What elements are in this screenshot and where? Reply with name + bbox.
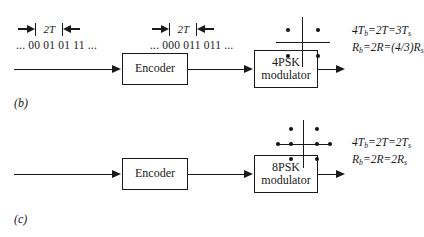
modulator-label-line2-c: modulator	[261, 174, 310, 187]
constellation-axis-vertical-c	[303, 120, 304, 168]
modulator-block-8psk: 8PSK modulator	[254, 155, 318, 193]
timing-bracket-left-b: 2T	[18, 22, 80, 36]
constellation-axis-vertical-b	[302, 17, 303, 67]
arrowhead-into-modulator-b	[244, 65, 253, 73]
4psk-constellation	[262, 12, 344, 46]
timing-label-left-b: 2T	[36, 24, 62, 35]
eq2-lhs-sub-c: b	[359, 158, 363, 167]
panel-caption-b: (b)	[14, 96, 28, 111]
eq2-lhs-b: R	[352, 41, 359, 53]
encoded-bit-sequence: ... 000 011 011 ...	[150, 40, 233, 52]
constellation-point	[315, 127, 319, 131]
timing-arrowhead-right-pointing-b2	[161, 25, 169, 33]
encoder-label-c: Encoder	[135, 167, 175, 180]
eq1-lhs-sub-b: b	[364, 29, 368, 38]
eq1-rhs-c: 2T	[396, 136, 408, 148]
input-bit-sequence: ... 00 01 01 11 ...	[16, 40, 97, 52]
equations-c: 4Tb=2T=2Ts Rb=2R=2Rs	[352, 134, 411, 169]
equation-timing-c: 4Tb=2T=2Ts	[352, 134, 411, 151]
8psk-constellation	[262, 122, 344, 156]
constellation-point	[315, 157, 319, 161]
timing-shaft-left-b	[18, 28, 27, 30]
panel-b: 2T 2T ... 00 01 01 11 ... ... 000 011 01…	[0, 0, 412, 120]
equation-timing-b: 4Tb=2T=3Ts	[352, 22, 424, 39]
timing-shaft-left-b2	[152, 28, 161, 30]
panel-caption-c: (c)	[14, 212, 27, 227]
constellation-point	[276, 142, 280, 146]
eq1-lhs-sub-c: b	[364, 141, 368, 150]
encoder-label-b: Encoder	[135, 62, 175, 75]
modulator-label-line2-b: modulator	[261, 69, 310, 82]
constellation-point	[289, 127, 293, 131]
wire-encoder-to-modulator-c	[188, 174, 250, 175]
encoder-block-c: Encoder	[122, 158, 188, 190]
timing-arrowhead-left-pointing-b2	[197, 25, 205, 33]
eq2-lhs-sub-b: b	[359, 46, 363, 55]
constellation-point	[316, 54, 320, 58]
encoder-block-b: Encoder	[122, 53, 188, 85]
eq2-rhs-sub-b: s	[421, 46, 424, 55]
eq1-rhs-b: 3T	[396, 24, 408, 36]
timing-shaft-right-b2	[205, 28, 214, 30]
eq1-mid-b: 2T	[376, 24, 388, 36]
eq2-lhs-c: R	[352, 153, 359, 165]
constellation-point	[289, 142, 293, 146]
constellation-point	[328, 142, 332, 146]
arrowhead-into-modulator-c	[244, 170, 253, 178]
wire-input-to-encoder-b	[14, 69, 118, 70]
eq2-mid-b: 2R	[371, 41, 384, 53]
constellation-point	[316, 28, 320, 32]
eq1-lhs-b: 4T	[352, 24, 364, 36]
equation-rate-c: Rb=2R=2Rs	[352, 151, 411, 168]
eq2-rhs-sub-c: s	[404, 158, 407, 167]
arrowhead-output-c	[336, 170, 345, 178]
panel-c: Encoder 8PSK modulator 4Tb=2T=2Ts Rb=2R=…	[0, 118, 412, 237]
arrowhead-into-encoder-c	[112, 170, 121, 178]
equation-rate-b: Rb=2R=(4/3)Rs	[352, 39, 424, 56]
timing-label-right-b: 2T	[170, 24, 196, 35]
constellation-point	[286, 28, 290, 32]
eq2-rhs-c: 2R	[391, 153, 404, 165]
wire-input-to-encoder-c	[14, 174, 118, 175]
modulator-label-line1-c: 8PSK	[272, 161, 300, 174]
timing-arrowhead-left-pointing-b	[63, 25, 71, 33]
timing-bracket-right-b: 2T	[152, 22, 214, 36]
timing-shaft-right-b	[71, 28, 80, 30]
eq2-rhs-b: (4/3)R	[391, 41, 420, 53]
eq2-mid-c: 2R	[371, 153, 384, 165]
eq1-rhs-sub-b: s	[408, 29, 411, 38]
wire-encoder-to-modulator-b	[188, 69, 250, 70]
eq1-mid-c: 2T	[376, 136, 388, 148]
eq1-rhs-sub-c: s	[408, 141, 411, 150]
equations-b: 4Tb=2T=3Ts Rb=2R=(4/3)Rs	[352, 22, 424, 57]
arrowhead-into-encoder-b	[112, 65, 121, 73]
timing-arrowhead-right-pointing-b	[27, 25, 35, 33]
eq1-lhs-c: 4T	[352, 136, 364, 148]
constellation-point	[315, 142, 319, 146]
arrowhead-output-b	[336, 65, 345, 73]
